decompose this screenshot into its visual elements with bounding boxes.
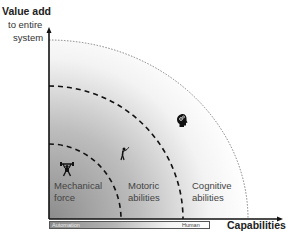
region-label-line: abilities xyxy=(128,192,160,204)
region-label-line: Cognitive xyxy=(192,180,232,192)
x-axis-title: Capabilities xyxy=(227,219,286,231)
region-label-line: Mechanical xyxy=(54,180,102,192)
spectrum-right-label: Human xyxy=(182,221,200,229)
region-label-line: force xyxy=(54,192,102,204)
region-label-line: Motoric xyxy=(128,180,160,192)
y-axis-title: Value add xyxy=(2,5,51,17)
region-label-cognitive-abilities: Cognitive abilities xyxy=(192,180,232,204)
y-axis-subtitle-line2: system xyxy=(13,32,43,43)
region-label-mechanical-force: Mechanical force xyxy=(54,180,102,204)
region-label-motoric-abilities: Motoric abilities xyxy=(128,180,160,204)
y-axis-arrow xyxy=(47,27,52,33)
y-axis-subtitle-line1: to entire xyxy=(8,19,42,30)
region-label-line: abilities xyxy=(192,192,232,204)
spectrum-left-label: Automation xyxy=(52,221,80,229)
